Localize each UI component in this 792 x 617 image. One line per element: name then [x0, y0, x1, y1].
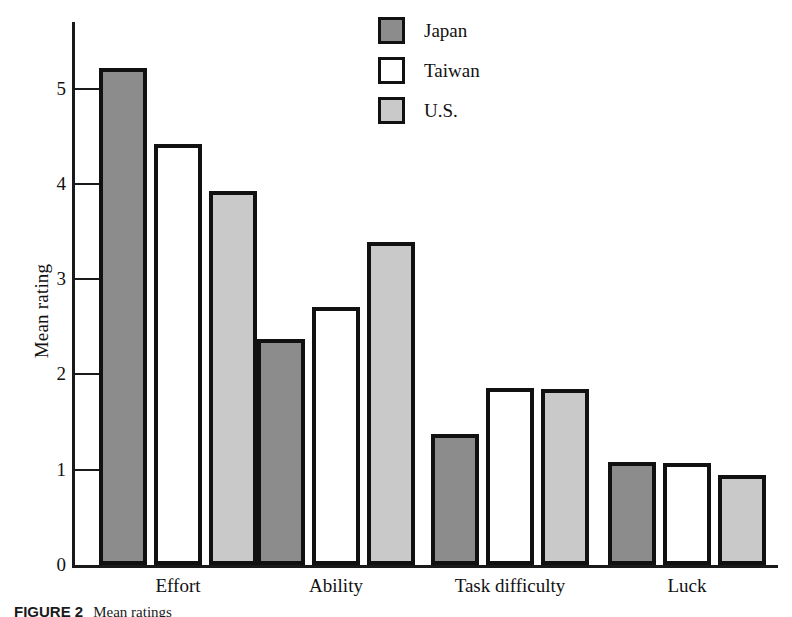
bar-japan-task-difficulty — [431, 434, 479, 566]
legend-label: U.S. — [424, 101, 458, 120]
legend-item-taiwan: Taiwan — [378, 50, 628, 90]
bar-us-luck — [718, 475, 766, 565]
legend-item-japan: Japan — [378, 10, 628, 50]
chart-legend: JapanTaiwanU.S. — [378, 10, 628, 130]
figure-bar-chart: Mean rating 012345 EffortAbilityTask dif… — [0, 0, 792, 617]
legend-swatch-icon-u-s- — [378, 97, 405, 124]
legend-label: Taiwan — [424, 61, 480, 80]
legend-label: Japan — [424, 21, 467, 40]
bar-us-task-difficulty — [541, 389, 589, 565]
bar-us-ability — [367, 242, 415, 565]
bar-taiwan-ability — [312, 307, 360, 565]
bar-us-effort — [209, 191, 257, 565]
bar-japan-luck — [608, 462, 656, 565]
x-axis-label-luck: Luck — [568, 575, 792, 597]
figure-caption: FIGURE 2Mean ratings — [14, 603, 172, 617]
bar-taiwan-effort — [154, 144, 202, 565]
legend-swatch-icon-japan — [378, 17, 405, 44]
legend-swatch-icon-taiwan — [378, 57, 405, 84]
bar-japan-ability — [257, 339, 305, 565]
legend-item-u-s-: U.S. — [378, 90, 628, 130]
bar-taiwan-luck — [663, 463, 711, 565]
bar-japan-effort — [99, 68, 147, 565]
figure-caption-text: Mean ratings — [93, 604, 172, 617]
figure-caption-prefix: FIGURE 2 — [14, 603, 83, 617]
bar-taiwan-task-difficulty — [486, 388, 534, 565]
